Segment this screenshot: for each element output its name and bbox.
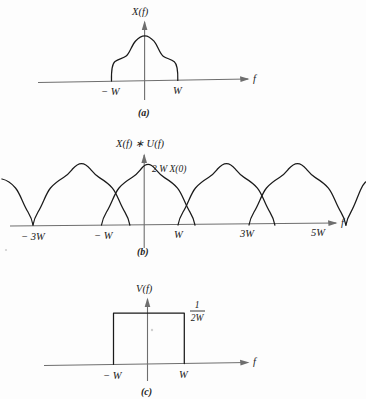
panel-c: V(f) f 1 2W − W W (c)	[44, 283, 258, 398]
panel-b-xtick-3w: 3W	[239, 228, 255, 239]
panel-c-y-axis-label: V(f)	[136, 283, 153, 295]
page-speck-2	[151, 329, 153, 331]
panel-b-x-axis	[10, 223, 336, 226]
panel-b-peak-label: 2 W X(0)	[152, 164, 186, 175]
panel-c-xtick-w: W	[179, 369, 189, 380]
panel-b-y-axis-label: X(f) ∗ U(f)	[115, 138, 165, 150]
panel-b-xtick-w: W	[174, 229, 184, 240]
panel-c-x-axis	[44, 363, 248, 366]
panel-b-hump-partial-left	[2, 179, 33, 225]
panel-c-x-axis-arrow	[240, 360, 250, 366]
panel-c-caption: (c)	[141, 386, 152, 398]
fraction-numerator: 1	[195, 300, 200, 310]
panel-a-x-axis-arrow	[240, 76, 250, 82]
panel-a-caption: (a)	[138, 107, 150, 119]
panel-a-xtick-w: W	[173, 85, 183, 96]
panel-c-rect-pulse	[114, 313, 185, 364]
panel-b-caption: (b)	[137, 246, 149, 258]
panel-c-x-axis-label: f	[253, 356, 258, 367]
panel-b-y-axis-arrow	[141, 154, 147, 164]
panel-a-x-axis	[38, 79, 248, 83]
panel-b-x-axis-arrow	[328, 220, 338, 226]
figure-svg: X(f) f − W W (a)	[0, 0, 366, 399]
panel-b-xtick-minus-3w: − 3W	[21, 231, 46, 242]
panel-b-xtick-5w: 5W	[311, 227, 326, 238]
panel-a-y-axis-arrow	[142, 21, 148, 31]
fraction-denominator: 2W	[191, 313, 205, 323]
panel-a: X(f) f − W W (a)	[38, 6, 258, 119]
panel-b-xtick-minus-w: − W	[94, 230, 114, 241]
panel-c-y-axis-arrow	[145, 298, 151, 308]
panel-c-amplitude-fraction: 1 2W	[190, 300, 205, 323]
figure-container: X(f) f − W W (a)	[0, 0, 366, 399]
panel-a-y-axis-label: X(f)	[131, 6, 149, 18]
panel-c-xtick-minus-w: − W	[103, 370, 123, 381]
panel-a-xtick-minus-w: − W	[101, 86, 121, 97]
panel-b-hump-4w	[249, 164, 346, 226]
panel-b-hump-partial-right	[346, 182, 366, 225]
page-speck	[5, 249, 7, 251]
panel-a-x-axis-label: f	[253, 73, 258, 84]
panel-b: X(f) ∗ U(f) f 2 W X(0) − 3W − W W 3W 5W …	[2, 138, 366, 258]
